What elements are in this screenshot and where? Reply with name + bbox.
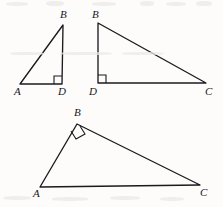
triangle-abc-bottom xyxy=(40,124,200,187)
triangle-bdc-right xyxy=(98,23,206,83)
vertex-label-d-triangle-bdc: D xyxy=(89,86,97,97)
vertex-label-b-triangle-bdc: B xyxy=(92,9,99,20)
right-angle-mark-d-right xyxy=(98,75,106,83)
triangle-abd-left xyxy=(20,25,63,84)
vertex-label-a-triangle-abd: A xyxy=(14,86,21,97)
geometry-figure: A B D B D C A B C xyxy=(0,0,223,207)
right-angle-mark-b-bottom xyxy=(71,126,85,139)
triangle-abd-outline xyxy=(20,25,63,84)
vertex-label-c-triangle-bdc: C xyxy=(205,86,212,97)
right-angle-mark-d-left xyxy=(54,76,62,84)
vertex-label-b-triangle-abc: B xyxy=(74,107,81,118)
triangle-abc-outline xyxy=(40,124,200,187)
vertex-label-c-triangle-abc: C xyxy=(200,187,207,198)
vertex-label-d-triangle-abd: D xyxy=(58,86,66,97)
vertex-label-a-triangle-abc: A xyxy=(33,188,40,199)
triangle-bdc-outline xyxy=(98,23,206,83)
vertex-label-b-triangle-abd: B xyxy=(60,9,67,20)
triangles-canvas xyxy=(0,0,223,207)
